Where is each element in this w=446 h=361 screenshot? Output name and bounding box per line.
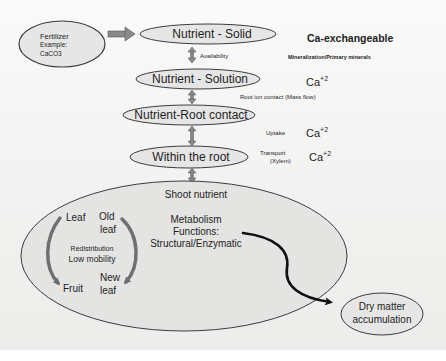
nutrient-solution-label: Nutrient - Solution xyxy=(152,73,248,85)
nutrient-root-contact-label: Nutrient-Root contact xyxy=(134,109,247,121)
calcium-ion-solution: Ca+2 xyxy=(306,77,328,88)
double-arrow-icon xyxy=(188,90,196,104)
calcium-charge: +2 xyxy=(323,150,331,157)
fertilizer-arrow-icon xyxy=(108,27,135,41)
ca-exchangeable-label: Ca-exchangeable xyxy=(307,33,393,44)
page-bottom-margin xyxy=(0,350,446,361)
xylem-label: (Xylem) xyxy=(270,158,291,164)
shoot-nutrient-title: Shoot nutrient xyxy=(165,190,227,200)
leaf-label: Leaf xyxy=(66,213,85,223)
double-arrow-icon xyxy=(188,126,196,146)
structural-enzymatic-label: Structural/Enzymatic xyxy=(150,239,242,249)
old-leaf-label-line1: Old xyxy=(99,212,115,222)
new-leaf-label-line2: leaf xyxy=(100,286,116,296)
calcium-charge: +2 xyxy=(320,126,328,133)
fruit-label: Fruit xyxy=(63,284,83,294)
functions-label: Functions: xyxy=(173,227,219,237)
availability-label: Availability xyxy=(200,53,228,59)
calcium-symbol: Ca xyxy=(306,76,320,88)
calcium-charge: +2 xyxy=(320,75,328,82)
old-leaf-label-line2: leaf xyxy=(100,225,116,235)
low-mobility-label: Low mobility xyxy=(69,255,116,264)
calcium-ion-transport: Ca+2 xyxy=(309,152,331,163)
redistribution-label: Redistribution xyxy=(71,245,114,252)
metabolism-label: Metabolism xyxy=(170,215,221,225)
uptake-label: Uptake xyxy=(266,130,285,136)
root-ion-contact-label: Root ion contact (Mass flow) xyxy=(240,94,316,100)
within-root-label: Within the root xyxy=(152,151,229,163)
fertilizer-example-label: Example: xyxy=(40,42,67,49)
calcium-ion-uptake: Ca+2 xyxy=(306,128,328,139)
dry-matter-label-line2: accumulation xyxy=(353,315,412,325)
double-arrow-icon xyxy=(188,47,196,63)
dry-matter-label-line1: Dry matter xyxy=(359,302,406,312)
calcium-symbol: Ca xyxy=(309,151,323,163)
calcium-symbol: Ca xyxy=(306,127,320,139)
transport-label: Transport xyxy=(260,150,285,156)
mineralization-label: Mineralization/Primary minerals xyxy=(288,55,371,61)
new-leaf-label-line1: New xyxy=(100,273,120,283)
fertilizer-compound-label: CaCO3 xyxy=(40,51,62,58)
nutrient-solid-label: Nutrient - Solid xyxy=(172,28,251,40)
fertilizer-label: Fertilizer xyxy=(40,33,69,41)
